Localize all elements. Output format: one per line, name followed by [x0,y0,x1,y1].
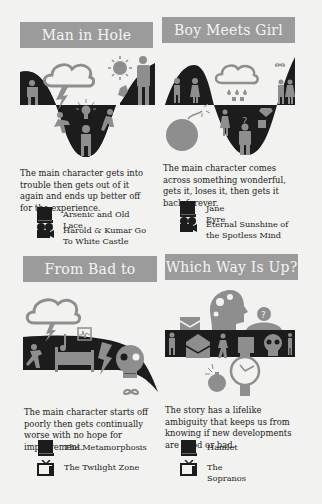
panel-title: Which Way Is Up? [165,254,298,280]
example-label: The Twilight Zone [64,460,139,473]
envelope-icon [180,317,200,331]
sun-icon [108,56,132,80]
example-item: Hamlet [180,440,238,456]
tv-icon [180,460,198,476]
storm-cloud-icon [27,300,79,323]
example-item: Eternal Sunshine of the Spotless Mind [179,217,301,240]
film-reel-icon [179,217,197,233]
bad-to-worse-diagram [20,290,160,400]
example-label: The Metamorphosis [64,440,147,453]
example-label: The Sopranos [207,460,246,483]
man-in-hole-diagram [20,55,155,160]
thinking-head-icon [210,290,248,330]
bomb-icon [205,364,226,392]
panel-title: From Bad to Worse [23,256,157,282]
book-icon [37,440,55,456]
film-reel-icon [36,223,54,239]
book-icon [179,201,197,217]
question-person-icon: ? [246,307,282,330]
example-item: The Twilight Zone [37,460,139,476]
example-item: The Metamorphosis [37,440,147,456]
raindrops-icon [227,89,247,101]
infinity-icon [275,64,284,66]
example-item: Harold & Kumar Go To White Castle [36,223,158,246]
bomb-icon [166,104,210,151]
rain-cloud-icon [216,66,258,84]
example-label: Eternal Sunshine of the Spotless Mind [206,217,301,240]
example-label: Harold & Kumar Go To White Castle [63,223,158,246]
svg-text:?: ? [261,310,266,320]
example-label: Hamlet [207,440,238,453]
book-icon [36,207,54,223]
storm-cloud-icon [45,65,94,86]
boy-meets-girl-diagram: ? [162,55,297,160]
infinity-icon [124,390,138,394]
tv-icon [37,460,55,476]
panel-title: Man in Hole [20,22,153,48]
book-icon [180,440,198,456]
panel-title: Boy Meets Girl [162,17,295,43]
example-item: The Sopranos [180,460,246,483]
story-curve [165,65,214,105]
which-way-diagram: ? [160,290,300,400]
gift-icon [258,120,266,128]
